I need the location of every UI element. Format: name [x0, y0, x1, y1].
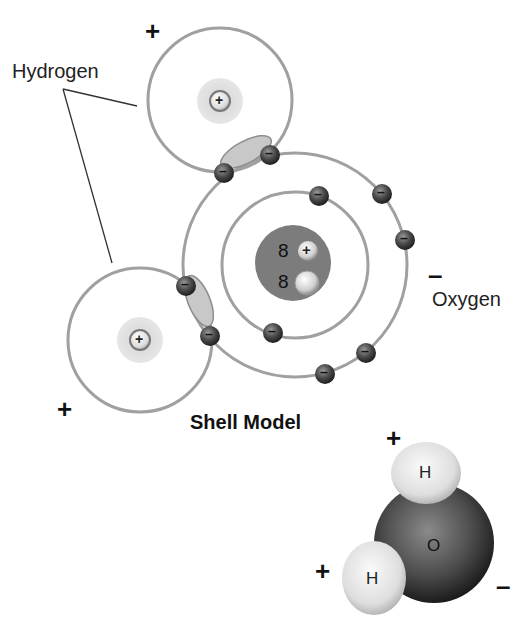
oxygen-charge: –	[428, 262, 442, 288]
hydrogen-left-spacefill-charge: +	[315, 558, 330, 584]
space-filling-model	[342, 442, 494, 615]
electron-minus-icon: –	[320, 364, 328, 380]
electron-minus-icon: –	[219, 163, 227, 179]
oxygen-label: Oxygen	[432, 288, 501, 311]
hydrogen-top-charge: +	[145, 18, 160, 44]
oxygen-neutron	[295, 271, 319, 295]
electron-minus-icon: –	[268, 323, 276, 339]
hydrogen-left-charge: +	[57, 396, 72, 422]
electron-minus-icon: –	[181, 276, 189, 292]
electron-minus-icon: –	[265, 145, 273, 161]
hydrogen-top-proton-plus-icon: +	[215, 92, 223, 108]
hydrogen-top-spacefill-charge: +	[386, 425, 401, 451]
electron-minus-icon: –	[205, 326, 213, 342]
diagram-title: Shell Model	[190, 411, 301, 434]
electron-minus-icon: –	[314, 186, 322, 202]
proton-count: 8	[278, 240, 289, 262]
hydrogen-left-sphere-label: H	[366, 569, 378, 589]
oxygen-nucleus	[255, 225, 331, 301]
hydrogen-label: Hydrogen	[12, 60, 99, 83]
proton-plus-icon: +	[302, 241, 311, 258]
hydrogen-top-sphere-label: H	[419, 463, 431, 483]
oxygen-sphere-label: O	[427, 536, 440, 556]
water-molecule-diagram	[0, 0, 530, 635]
hydrogen-left-proton-plus-icon: +	[135, 331, 143, 347]
electron-minus-icon: –	[361, 343, 369, 359]
electron-minus-icon: –	[400, 230, 408, 246]
neutron-count: 8	[278, 271, 289, 293]
hydrogen-leader-lines	[63, 89, 137, 263]
electron-minus-icon: –	[377, 184, 385, 200]
oxygen-spacefill-charge: –	[496, 573, 510, 599]
